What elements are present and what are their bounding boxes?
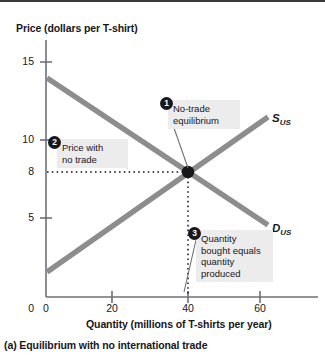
y-tick-label-10: 10 bbox=[10, 133, 34, 145]
y-tick-label-8: 8 bbox=[10, 165, 34, 177]
demand-curve-label-subscript: US bbox=[280, 228, 291, 237]
callout-3-box: Quantity bought equals quantity produced bbox=[196, 230, 273, 282]
figure-panel: Price (dollars per T-shirt) 15 10 8 5 0 bbox=[0, 0, 325, 355]
x-tick-label-60: 60 bbox=[247, 302, 273, 314]
demand-curve-label: DUS bbox=[272, 222, 291, 237]
callout-2-badge: 2 bbox=[48, 136, 61, 149]
x-tick-label-20: 20 bbox=[99, 302, 125, 314]
x-tick-label-40: 40 bbox=[175, 302, 201, 314]
y-tick-label-0: 0 bbox=[10, 302, 34, 314]
x-axis-title: Quantity (millions of T-shirts per year) bbox=[86, 318, 272, 330]
callout-3-leader-line bbox=[184, 240, 196, 292]
callout-2-box: Price with no trade bbox=[57, 139, 128, 168]
x-tick-label-0: 0 bbox=[33, 302, 59, 314]
callout-1-badge: 1 bbox=[160, 97, 173, 110]
figure-caption: (a) Equilibrium with no international tr… bbox=[4, 339, 207, 351]
y-tick-label-5: 5 bbox=[10, 211, 34, 223]
callout-3-badge: 3 bbox=[188, 227, 201, 240]
y-tick-label-15: 15 bbox=[10, 55, 34, 67]
callout-1-box: No-trade equilibrium bbox=[168, 100, 240, 129]
supply-curve-label-base: S bbox=[272, 112, 280, 124]
supply-curve-label: SUS bbox=[272, 112, 291, 127]
supply-curve-label-subscript: US bbox=[280, 118, 291, 127]
